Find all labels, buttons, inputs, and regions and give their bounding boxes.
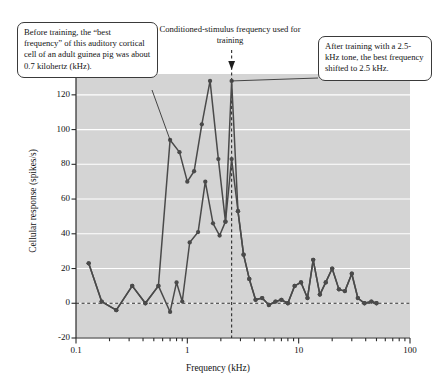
x-tick-label: 0.1 — [56, 345, 96, 355]
y-tick-label: 80 — [36, 158, 70, 168]
y-tick-label: -20 — [36, 332, 70, 342]
y-tick-label: 0 — [36, 297, 70, 307]
x-tick-label: 100 — [390, 345, 430, 355]
callout-after-training: After training with a 2.5-kHz tone, the … — [318, 36, 432, 81]
y-tick-label: 60 — [36, 193, 70, 203]
x-axis-title: Frequency (kHz) — [0, 363, 436, 373]
y-tick-label: 120 — [36, 89, 70, 99]
y-tick-label: 40 — [36, 228, 70, 238]
x-tick-label: 1 — [167, 345, 207, 355]
y-tick-label: 20 — [36, 263, 70, 273]
x-tick-label: 10 — [279, 345, 319, 355]
callout-stimulus-text: Conditioned-stimulus frequency used for … — [159, 24, 300, 45]
callout-conditioned-stimulus: Conditioned-stimulus frequency used for … — [150, 24, 310, 46]
y-tick-label: 100 — [36, 124, 70, 134]
callout-before-training: Before training, the “best frequency” of… — [17, 22, 158, 78]
